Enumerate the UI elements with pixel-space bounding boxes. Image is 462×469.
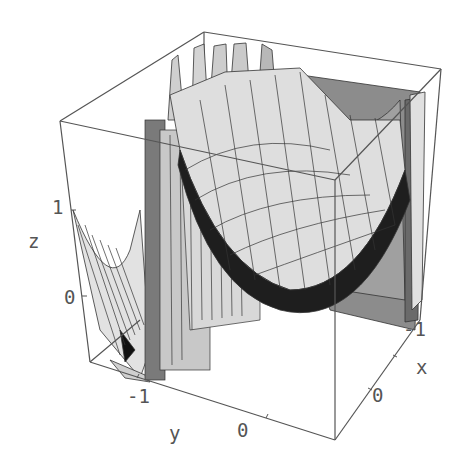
x-axis-label: x <box>416 358 427 377</box>
y-axis-label: y <box>169 424 180 443</box>
plot-canvas <box>0 0 462 469</box>
y-tick-minus-1: -1 <box>127 387 150 406</box>
surface-plot-3d: 1 z 0 -1 y 0 -1 x 0 <box>0 0 462 469</box>
x-tick-0: 0 <box>372 386 383 405</box>
z-axis-label: z <box>28 232 39 251</box>
x-tick-minus-1: -1 <box>403 320 426 339</box>
z-tick-1: 1 <box>52 198 63 217</box>
y-tick-0: 0 <box>237 421 248 440</box>
z-tick-0: 0 <box>64 288 75 307</box>
